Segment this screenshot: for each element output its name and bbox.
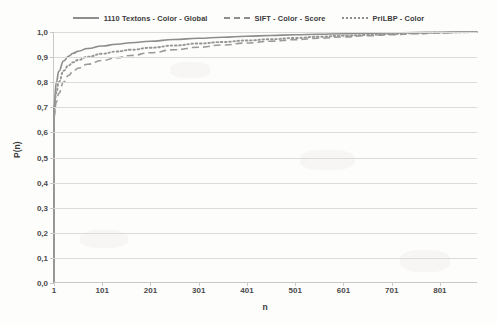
x-tick-label: 201	[144, 286, 157, 295]
gridline-horizontal	[54, 233, 477, 234]
y-tick-mark	[50, 57, 54, 58]
y-tick-mark	[50, 32, 54, 33]
legend-entry: PriLBP - Color	[342, 14, 425, 23]
x-tick-label: 301	[192, 286, 205, 295]
gridline-horizontal	[54, 258, 477, 259]
gridline-horizontal	[54, 183, 477, 184]
y-tick-mark	[50, 132, 54, 133]
y-tick-label: 0,0	[37, 279, 48, 288]
chart-figure: 1110 Textons - Color - GlobalSIFT - Colo…	[0, 0, 497, 325]
y-tick-label: 0,5	[37, 153, 48, 162]
y-tick-mark	[50, 158, 54, 159]
gridline-horizontal	[54, 82, 477, 83]
y-tick-label: 0,4	[37, 178, 48, 187]
y-tick-mark	[50, 82, 54, 83]
legend-line-swatch-solid	[73, 14, 99, 22]
legend-label: 1110 Textons - Color - Global	[104, 14, 208, 23]
y-tick-mark	[50, 208, 54, 209]
y-tick-mark	[50, 107, 54, 108]
legend-label: PriLBP - Color	[373, 14, 425, 23]
gridline-horizontal	[54, 158, 477, 159]
x-tick-label: 101	[96, 286, 109, 295]
y-axis-title: P(n)	[12, 141, 22, 158]
y-tick-label: 0,2	[37, 228, 48, 237]
legend-entry: 1110 Textons - Color - Global	[73, 14, 208, 23]
y-tick-mark	[50, 258, 54, 259]
gridline-horizontal	[54, 32, 477, 33]
chart-legend: 1110 Textons - Color - GlobalSIFT - Colo…	[0, 11, 497, 25]
x-axis-title: n	[53, 302, 477, 312]
y-tick-label: 0,1	[37, 253, 48, 262]
gridline-horizontal	[54, 107, 477, 108]
legend-entry: SIFT - Color - Score	[224, 14, 326, 23]
x-tick-label: 801	[433, 286, 446, 295]
x-tick-label: 401	[240, 286, 253, 295]
x-tick-label: 701	[385, 286, 398, 295]
y-tick-label: 0,6	[37, 128, 48, 137]
legend-line-swatch-dashed	[224, 14, 250, 22]
gridline-horizontal	[54, 208, 477, 209]
gridline-horizontal	[54, 132, 477, 133]
y-tick-mark	[50, 183, 54, 184]
y-tick-label: 0,3	[37, 203, 48, 212]
y-tick-label: 0,7	[37, 103, 48, 112]
x-tick-label: 601	[337, 286, 350, 295]
y-tick-label: 0,9	[37, 53, 48, 62]
y-tick-mark	[50, 233, 54, 234]
gridline-horizontal	[54, 57, 477, 58]
x-tick-label: 1	[52, 286, 56, 295]
y-tick-label: 0,8	[37, 78, 48, 87]
legend-line-swatch-dotted	[342, 14, 368, 22]
y-tick-label: 1,0	[37, 28, 48, 37]
plot-area: 0,00,10,20,30,40,50,60,70,80,91,01101201…	[53, 32, 477, 283]
x-tick-label: 501	[288, 286, 301, 295]
legend-label: SIFT - Color - Score	[255, 14, 326, 23]
